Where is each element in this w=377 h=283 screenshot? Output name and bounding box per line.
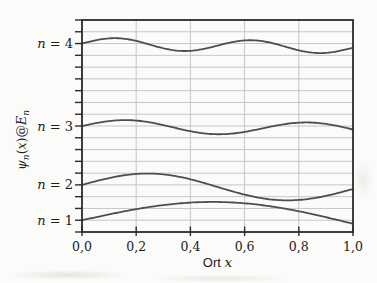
wavefunction-curve-n4 bbox=[82, 38, 353, 53]
series-label-n4: n = 4 bbox=[37, 36, 73, 51]
x-tick-labels: 0,00,20,40,60,81,0 bbox=[72, 239, 363, 254]
x-tick-label: 0,6 bbox=[235, 239, 255, 254]
x-tick-label: 0,8 bbox=[289, 239, 309, 254]
series-labels: n = 4n = 3n = 2n = 1 bbox=[37, 36, 73, 228]
x-tick-label: 0,4 bbox=[180, 239, 200, 254]
wavefunction-curve-n3 bbox=[82, 120, 353, 134]
x-axis-label: Ort x bbox=[203, 254, 233, 270]
wavefunction-figure: 0,00,20,40,60,81,0n = 4n = 3n = 2n = 1Or… bbox=[0, 0, 377, 283]
wavefunction-chart: 0,00,20,40,60,81,0n = 4n = 3n = 2n = 1Or… bbox=[0, 0, 377, 283]
x-tick-label: 1,0 bbox=[343, 239, 363, 254]
series-label-n2: n = 2 bbox=[37, 177, 73, 192]
x-tick-label: 0,2 bbox=[126, 239, 146, 254]
x-tick-label: 0,0 bbox=[72, 239, 92, 254]
series-label-n1: n = 1 bbox=[37, 213, 73, 228]
series-label-n3: n = 3 bbox=[37, 119, 73, 134]
wavefunction-curves bbox=[82, 38, 353, 224]
y-axis-label: ψn(x)@En bbox=[14, 110, 31, 170]
